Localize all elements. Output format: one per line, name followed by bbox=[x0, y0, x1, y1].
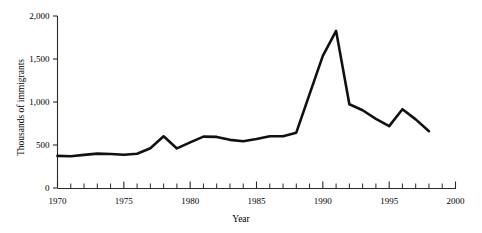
data-line-immigrants bbox=[58, 31, 429, 156]
y-axis-ticks bbox=[53, 16, 58, 188]
plot-area bbox=[0, 0, 482, 233]
x-tick-label: 2000 bbox=[447, 196, 465, 206]
y-tick-label: 2,000 bbox=[0, 11, 50, 21]
y-axis-title: Thousands of immigrants bbox=[16, 43, 27, 173]
x-axis-major-ticks bbox=[58, 182, 456, 189]
y-tick-label: 0 bbox=[0, 183, 50, 193]
x-tick-label: 1975 bbox=[115, 196, 133, 206]
x-tick-label: 1985 bbox=[248, 196, 266, 206]
data-series-group bbox=[58, 31, 429, 156]
x-tick-label: 1970 bbox=[49, 196, 67, 206]
immigration-line-chart: 05001,0001,5002,000 19701975198019851990… bbox=[0, 0, 482, 233]
x-axis-title: Year bbox=[0, 214, 482, 225]
x-tick-label: 1995 bbox=[380, 196, 398, 206]
axis-lines bbox=[58, 16, 457, 189]
x-tick-label: 1990 bbox=[314, 196, 332, 206]
x-tick-label: 1980 bbox=[181, 196, 199, 206]
